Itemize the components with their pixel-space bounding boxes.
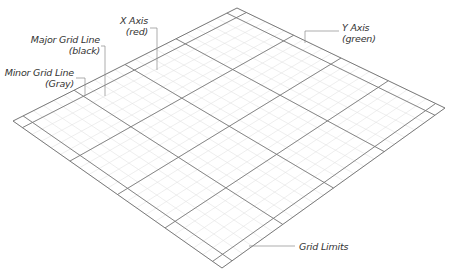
x-axis-label: X Axis (red) [112,15,148,37]
major-grid-line [227,13,435,115]
major-grid-line-label: Major Grid Line (black) [30,34,100,56]
major-grid-line [165,81,388,228]
major-grid-line [176,39,384,152]
grid-limits-label: Grid Limits [299,241,348,252]
major-grid-line [118,58,342,195]
major-grid-line-leader [101,46,105,96]
leader-lines [76,28,339,246]
grid-limit-edge [237,8,445,108]
minor-grid-line-label: Minor Grid Line (Gray) [2,67,74,89]
y-axis-label: Y Axis (green) [342,22,376,44]
y-axis-leader [305,31,339,43]
